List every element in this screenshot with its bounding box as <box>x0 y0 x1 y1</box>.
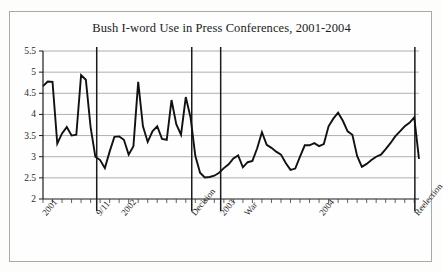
line-chart-svg <box>10 12 433 263</box>
y-tick-label: 3 <box>10 152 36 162</box>
y-tick-label: 5 <box>10 67 36 77</box>
y-tick-label: 2.5 <box>10 173 36 183</box>
data-series-line <box>43 75 419 177</box>
gridlines <box>43 51 419 199</box>
y-tick-label: 4 <box>10 109 36 119</box>
chart-plot-area: 22.533.544.555.5 20019/112002Decision200… <box>10 12 433 263</box>
y-tick-label: 5.5 <box>10 46 36 56</box>
y-tick-label: 2 <box>10 194 36 204</box>
figure-frame: Bush I-word Use in Press Conferences, 20… <box>9 11 432 262</box>
y-tick-label: 3.5 <box>10 131 36 141</box>
y-tick-label: 4.5 <box>10 88 36 98</box>
